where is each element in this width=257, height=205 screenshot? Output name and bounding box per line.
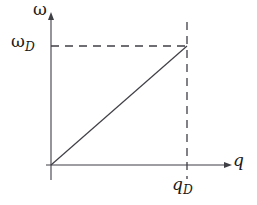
y-axis-label-text: ω: [33, 0, 47, 19]
dispersion-figure: ω ωD q qD: [0, 0, 257, 205]
y-tick-base-glyph: ω: [11, 31, 25, 51]
y-axis-label: ω: [33, 1, 47, 18]
x-axis-label-text: q: [233, 150, 244, 170]
x-tick-base-glyph: q: [172, 174, 183, 194]
x-tick-subscript: D: [183, 183, 193, 197]
dispersion-line: [51, 46, 187, 165]
x-axis-label: q: [233, 152, 244, 169]
y-axis: [48, 12, 54, 180]
x-tick-label-q-d: qD: [172, 176, 193, 196]
y-tick-label-omega-d: ωD: [11, 33, 35, 53]
x-axis-arrow-icon: [224, 162, 232, 168]
x-axis: [46, 162, 232, 168]
y-axis-arrow-icon: [48, 12, 54, 20]
plot-canvas: [0, 0, 257, 205]
y-tick-subscript: D: [25, 40, 35, 54]
